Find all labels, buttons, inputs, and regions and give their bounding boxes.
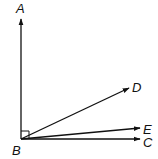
- angle-diagram: A B D E C: [0, 0, 158, 159]
- ray-bd: [21, 88, 129, 139]
- label-d: D: [132, 80, 141, 95]
- ray-be: [21, 128, 140, 139]
- label-b: B: [12, 143, 21, 158]
- label-a: A: [15, 1, 25, 16]
- label-c: C: [143, 135, 153, 150]
